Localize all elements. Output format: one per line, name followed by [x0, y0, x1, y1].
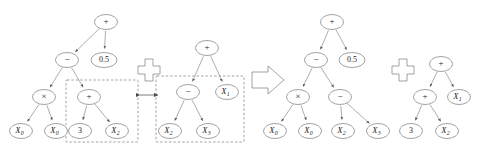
tree-node-variable: X2	[159, 124, 182, 139]
node-label: +	[86, 91, 91, 101]
node-label-subscript: 0	[56, 130, 59, 136]
tree-node-variable: X2	[106, 124, 129, 139]
tree-edge	[192, 100, 203, 121]
node-label-subscript: 3	[207, 130, 211, 136]
tree-edge	[193, 56, 204, 81]
tree-node-constant: 0.5	[339, 53, 365, 68]
tree-edge	[75, 28, 99, 52]
tree-node-variable: X0	[264, 124, 287, 139]
node-label-subscript: 2	[170, 130, 173, 136]
tree-node-operator: −	[305, 53, 328, 68]
tree-node-operator: +	[78, 90, 101, 105]
tree-edge	[336, 30, 346, 50]
node-label-subscript: 1	[227, 91, 230, 97]
node-label: +	[438, 58, 443, 68]
tree-edge	[175, 100, 184, 120]
node-label: 3	[409, 126, 413, 135]
node-label-subscript: 0	[275, 130, 278, 136]
tree-node-operator: +	[321, 15, 344, 30]
tree-node-variable: X3	[367, 124, 390, 139]
tree-edge	[211, 56, 223, 81]
tree-node-constant: 3	[69, 124, 92, 139]
tree-node-operator: +	[196, 41, 219, 56]
tree-edge	[281, 104, 293, 121]
node-label: −	[313, 54, 318, 64]
offspring-crossover-plus-symbol	[392, 59, 414, 81]
transform-right-arrow	[252, 66, 284, 94]
node-label-subscript: 2	[343, 130, 346, 136]
node-label: −	[185, 86, 190, 96]
tree-node-constant: 0.5	[91, 53, 117, 68]
node-label: +	[329, 16, 334, 26]
tree-node-variable: X2	[436, 124, 459, 139]
tree-edge	[47, 105, 52, 120]
node-label-subscript: 0	[21, 130, 24, 136]
tree-edge	[83, 106, 87, 120]
node-label-subscript: 3	[377, 130, 381, 136]
tree-edge	[50, 68, 62, 88]
figure-canvas: +−0.5×+X0X03X2+−X1X2X3+−0.5×−X0X0X2X3++X…	[0, 0, 481, 157]
tree-edges-layer	[27, 28, 453, 123]
tree-edge	[95, 104, 110, 122]
tree-node-variable: X2	[332, 124, 355, 139]
tree-edge	[321, 68, 334, 88]
crossover-figure: +−0.5×+X0X03X2+−X1X2X3+−0.5×−X0X0X2X3++X…	[0, 0, 481, 157]
node-label: 0.5	[99, 55, 109, 64]
node-label: +	[422, 91, 427, 101]
node-label: −	[337, 91, 342, 101]
tree-node-operator: +	[414, 90, 437, 105]
node-label-subscript: 1	[459, 96, 462, 102]
tree-node-operator: +	[95, 15, 118, 30]
node-label: +	[103, 16, 108, 26]
tree-node-operator: −	[177, 85, 200, 100]
tree-node-operator: ×	[287, 90, 310, 105]
node-label: ×	[295, 91, 300, 101]
tree-node-operator: −	[56, 53, 79, 68]
tree-edge	[415, 105, 421, 120]
node-label-subscript: 0	[310, 130, 313, 136]
tree-node-variable: X0	[299, 124, 322, 139]
node-label-subscript: 2	[117, 130, 120, 136]
node-label-subscript: 2	[447, 130, 450, 136]
node-label: −	[64, 54, 69, 64]
tree-edge	[445, 72, 453, 87]
crossover-plus-symbol	[138, 59, 160, 81]
tree-edge	[105, 31, 106, 49]
tree-node-operator: ×	[33, 90, 56, 105]
node-label: ×	[41, 91, 46, 101]
tree-node-variable: X1	[448, 90, 471, 105]
tree-edge	[347, 103, 370, 123]
tree-edge	[303, 68, 312, 87]
tree-node-variable: X1	[216, 85, 239, 100]
tree-node-variable: X0	[10, 124, 33, 139]
tree-node-operator: −	[329, 90, 352, 105]
tree-edge	[430, 72, 437, 87]
node-label: 0.5	[347, 55, 357, 64]
tree-edge	[27, 104, 39, 121]
tree-node-constant: 3	[400, 124, 423, 139]
tree-edge	[301, 105, 306, 120]
tree-node-variable: X3	[197, 124, 220, 139]
tree-edge	[72, 68, 84, 87]
node-label: 3	[78, 126, 82, 135]
tree-edge	[341, 106, 342, 120]
tree-node-operator: +	[430, 57, 453, 72]
tree-node-variable: X0	[45, 124, 68, 139]
node-label: +	[204, 42, 209, 52]
tree-edge	[320, 30, 328, 49]
tree-edge	[430, 105, 441, 122]
